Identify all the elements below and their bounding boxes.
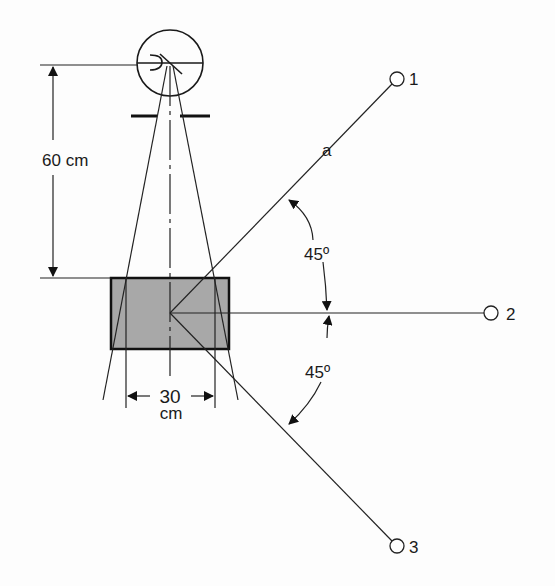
upper-angle-label: 45º bbox=[304, 245, 329, 264]
lower-angle-label: 45º bbox=[305, 363, 330, 382]
position-1-marker bbox=[390, 72, 404, 86]
width-unit-label: cm bbox=[160, 404, 183, 423]
position-3-marker bbox=[390, 539, 404, 553]
geometry-diagram: 60 cm 30 cm 1 2 3 a 45º 45º bbox=[0, 0, 555, 586]
distance-label: 60 cm bbox=[42, 151, 88, 170]
position-3-label: 3 bbox=[409, 538, 418, 557]
ray-label-a: a bbox=[322, 141, 332, 160]
position-2-label: 2 bbox=[506, 305, 515, 324]
position-1-label: 1 bbox=[409, 70, 418, 89]
position-2-marker bbox=[484, 306, 498, 320]
diagram-canvas: 60 cm 30 cm 1 2 3 a 45º 45º bbox=[0, 0, 555, 586]
distance-dimension bbox=[40, 65, 137, 278]
